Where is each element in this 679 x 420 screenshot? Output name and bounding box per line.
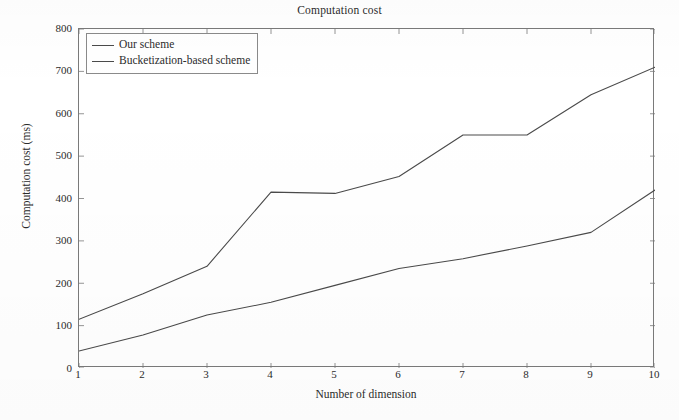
y-axis-label: Computation cost (ms) [20, 46, 32, 306]
axis-ticks [79, 29, 655, 368]
series-group [79, 67, 655, 351]
plot-svg [79, 29, 655, 368]
legend-line-icon [92, 45, 114, 46]
y-axis-tick-labels: 800 700 600 500 400 300 200 100 0 [32, 0, 72, 420]
legend-item-label: Our scheme [119, 39, 174, 51]
chart-title: Computation cost [0, 4, 679, 16]
y-tick-label: 700 [34, 65, 72, 76]
x-tick-label: 3 [191, 369, 221, 380]
x-tick-label: 4 [255, 369, 285, 380]
legend-item-label: Bucketization-based scheme [119, 55, 250, 67]
x-tick-label: 9 [575, 369, 605, 380]
legend-item-our-scheme: Our scheme [92, 37, 250, 53]
x-tick-label: 6 [383, 369, 413, 380]
y-tick-label: 400 [34, 193, 72, 204]
x-tick-label: 10 [639, 369, 669, 380]
legend-line-icon [92, 61, 114, 62]
y-tick-label: 300 [34, 235, 72, 246]
y-tick-label: 600 [34, 108, 72, 119]
x-axis-label: Number of dimension [78, 388, 654, 400]
x-tick-label: 5 [319, 369, 349, 380]
legend: Our scheme Bucketization-based scheme [86, 33, 258, 74]
x-tick-label: 2 [127, 369, 157, 380]
series-line [79, 190, 655, 351]
y-tick-label: 200 [34, 278, 72, 289]
series-line [79, 67, 655, 319]
y-tick-label: 800 [34, 23, 72, 34]
x-tick-label: 1 [63, 369, 93, 380]
legend-item-bucketization-based-scheme: Bucketization-based scheme [92, 53, 250, 69]
figure-root: Computation cost 800 700 600 500 400 300… [0, 0, 679, 420]
x-tick-label: 8 [511, 369, 541, 380]
x-axis-tick-labels: 1 2 3 4 5 6 7 8 9 10 [0, 369, 679, 389]
y-tick-label: 500 [34, 150, 72, 161]
y-tick-label: 100 [34, 320, 72, 331]
x-tick-label: 7 [447, 369, 477, 380]
plot-area [78, 28, 654, 367]
